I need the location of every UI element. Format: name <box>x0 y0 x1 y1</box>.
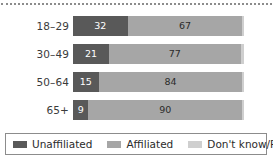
segment-value-label: 77 <box>169 49 181 59</box>
category-label-65-plus: 65+ <box>0 100 69 120</box>
segment-value-label: 32 <box>94 21 106 31</box>
segment-unaffiliated: 9 <box>73 100 88 120</box>
segment-unaffiliated: 21 <box>73 44 109 64</box>
segment-value-label: 84 <box>164 77 176 87</box>
chart-row: 30–49 21 77 <box>0 44 273 64</box>
chart-row: 18–29 32 67 <box>0 16 273 36</box>
stacked-bar-65-plus: 9 90 <box>73 100 244 120</box>
chart-row: 65+ 9 90 <box>0 100 273 120</box>
segment-value-label: 15 <box>80 77 92 87</box>
legend-label: Unaffiliated <box>32 139 92 150</box>
segment-dont-know <box>241 44 244 64</box>
stacked-bar-chart-figure: 18–29 32 67 30–49 21 77 <box>0 0 273 162</box>
segment-affiliated: 77 <box>109 44 241 64</box>
segment-affiliated: 84 <box>99 72 243 92</box>
segment-dont-know <box>242 72 244 92</box>
legend-swatch-icon <box>188 141 202 148</box>
segment-dont-know <box>242 100 244 120</box>
stacked-bar-50-64: 15 84 <box>73 72 244 92</box>
segment-value-label: 90 <box>159 105 171 115</box>
chart-row: 50–64 15 84 <box>0 72 273 92</box>
segment-dont-know <box>242 16 244 36</box>
category-label-50-64: 50–64 <box>0 72 69 92</box>
segment-unaffiliated: 32 <box>73 16 128 36</box>
legend-item-dont-know: Don't know/Refused <box>188 139 273 150</box>
stacked-bar-30-49: 21 77 <box>73 44 244 64</box>
segment-value-label: 9 <box>78 105 84 115</box>
legend-swatch-icon <box>107 141 121 148</box>
chart-legend: Unaffiliated Affiliated Don't know/Refus… <box>5 133 267 155</box>
legend-swatch-icon <box>13 141 27 148</box>
segment-affiliated: 90 <box>88 100 242 120</box>
segment-value-label: 21 <box>85 49 97 59</box>
legend-item-unaffiliated: Unaffiliated <box>13 139 92 150</box>
legend-label: Don't know/Refused <box>207 139 273 150</box>
legend-label: Affiliated <box>126 139 173 150</box>
segment-value-label: 67 <box>179 21 191 31</box>
category-label-30-49: 30–49 <box>0 44 69 64</box>
top-dotted-rule <box>1 3 272 5</box>
legend-item-affiliated: Affiliated <box>107 139 173 150</box>
segment-affiliated: 67 <box>128 16 243 36</box>
plot-area: 18–29 32 67 30–49 21 77 <box>0 12 273 124</box>
category-label-18-29: 18–29 <box>0 16 69 36</box>
stacked-bar-18-29: 32 67 <box>73 16 244 36</box>
segment-unaffiliated: 15 <box>73 72 99 92</box>
